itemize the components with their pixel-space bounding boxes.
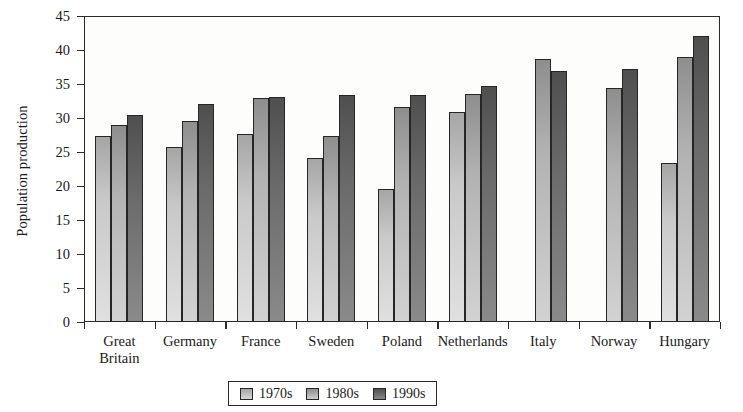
y-axis-tick-mark bbox=[77, 16, 84, 17]
y-axis-tick: 30 bbox=[0, 118, 84, 119]
y-axis-tick-label: 45 bbox=[56, 6, 71, 26]
y-axis-tick-mark bbox=[77, 50, 84, 51]
y-axis-tick-label: 0 bbox=[63, 312, 70, 332]
x-axis-tick-mark bbox=[84, 322, 85, 329]
x-axis-label: Sweden bbox=[296, 333, 367, 350]
y-axis-tick-label: 10 bbox=[56, 244, 71, 264]
y-axis-tick-mark bbox=[77, 152, 84, 153]
bar-1990s-5 bbox=[481, 86, 497, 322]
x-axis-label: Netherlands bbox=[437, 333, 508, 350]
x-axis-tick-mark bbox=[296, 322, 297, 329]
y-axis-tick: 40 bbox=[0, 50, 84, 51]
y-axis-tick-mark bbox=[77, 118, 84, 119]
legend-label: 1970s bbox=[259, 386, 292, 402]
x-axis-tick-mark bbox=[155, 322, 156, 329]
bar-1980s-8 bbox=[677, 57, 693, 322]
bar-1980s-2 bbox=[253, 98, 269, 322]
bar-1970s-3 bbox=[307, 158, 323, 322]
y-axis-tick: 5 bbox=[0, 288, 84, 289]
bar-1990s-0 bbox=[127, 115, 143, 322]
bar-1990s-8 bbox=[693, 36, 709, 322]
y-axis-tick-label: 25 bbox=[56, 142, 71, 162]
bar-1990s-3 bbox=[339, 95, 355, 322]
y-axis-tick: 0 bbox=[0, 322, 84, 323]
bar-1980s-6 bbox=[535, 59, 551, 322]
bar-1970s-1 bbox=[166, 147, 182, 322]
legend-label: 1990s bbox=[392, 386, 425, 402]
x-axis-tick-mark bbox=[720, 322, 721, 329]
legend-swatch-icon bbox=[373, 388, 386, 400]
legend-item: 1970s bbox=[240, 386, 292, 402]
x-axis-tick-mark bbox=[649, 322, 650, 329]
bar-1980s-5 bbox=[465, 94, 481, 322]
y-axis-tick-label: 15 bbox=[56, 210, 71, 230]
bar-1980s-1 bbox=[182, 121, 198, 322]
x-axis-label: Norway bbox=[579, 333, 650, 350]
bar-1970s-4 bbox=[378, 189, 394, 322]
y-axis-tick: 45 bbox=[0, 16, 84, 17]
x-axis-tick-mark bbox=[225, 322, 226, 329]
y-axis-tick-label: 35 bbox=[56, 74, 71, 94]
bar-1970s-2 bbox=[237, 134, 253, 322]
y-axis-tick-mark bbox=[77, 254, 84, 255]
legend-label: 1980s bbox=[325, 386, 358, 402]
y-axis-tick-mark bbox=[77, 288, 84, 289]
y-axis-tick: 15 bbox=[0, 220, 84, 221]
y-axis-tick-label: 40 bbox=[56, 40, 71, 60]
y-axis-tick-mark bbox=[77, 186, 84, 187]
x-axis-tick-mark bbox=[508, 322, 509, 329]
y-axis-tick: 25 bbox=[0, 152, 84, 153]
legend-item: 1980s bbox=[306, 386, 358, 402]
legend: 1970s1980s1990s bbox=[228, 381, 437, 406]
bar-1980s-7 bbox=[606, 88, 622, 322]
bar-1980s-4 bbox=[394, 107, 410, 322]
y-axis-tick: 35 bbox=[0, 84, 84, 85]
bar-1970s-8 bbox=[661, 163, 677, 322]
bar-1990s-6 bbox=[551, 71, 567, 322]
bar-1970s-5 bbox=[449, 112, 465, 322]
y-axis-tick-label: 20 bbox=[56, 176, 71, 196]
bar-chart: Population production 051015202530354045… bbox=[0, 0, 743, 412]
bar-1990s-1 bbox=[198, 104, 214, 322]
x-axis-label: Italy bbox=[508, 333, 579, 350]
y-axis-tick-mark bbox=[77, 322, 84, 323]
x-axis-label: France bbox=[225, 333, 296, 350]
y-axis-tick-mark bbox=[77, 84, 84, 85]
y-axis-tick-mark bbox=[77, 220, 84, 221]
x-axis-tick-mark bbox=[367, 322, 368, 329]
x-axis-tick-mark bbox=[579, 322, 580, 329]
bar-1990s-7 bbox=[622, 69, 638, 322]
y-axis-tick: 20 bbox=[0, 186, 84, 187]
x-axis-tick-mark bbox=[437, 322, 438, 329]
y-axis-tick-label: 5 bbox=[63, 278, 70, 298]
legend-swatch-icon bbox=[306, 388, 319, 400]
x-axis-label: Hungary bbox=[649, 333, 720, 350]
x-axis-label: Poland bbox=[367, 333, 438, 350]
bar-1970s-0 bbox=[95, 136, 111, 322]
x-axis-label: Great Britain bbox=[84, 333, 155, 367]
bar-1990s-4 bbox=[410, 95, 426, 322]
bar-1990s-2 bbox=[269, 97, 285, 322]
bar-1980s-3 bbox=[323, 136, 339, 322]
y-axis-tick-label: 30 bbox=[56, 108, 71, 128]
x-axis-label: Germany bbox=[155, 333, 226, 350]
legend-item: 1990s bbox=[373, 386, 425, 402]
bar-1980s-0 bbox=[111, 125, 127, 322]
legend-swatch-icon bbox=[240, 388, 253, 400]
bars-layer bbox=[84, 16, 720, 322]
y-axis-tick: 10 bbox=[0, 254, 84, 255]
y-axis-title: Population production bbox=[14, 6, 36, 336]
